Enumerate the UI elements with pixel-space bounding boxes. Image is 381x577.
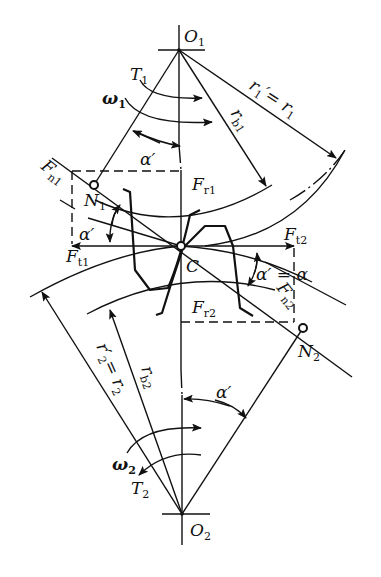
omega1-arrow [125, 98, 212, 123]
omega2-arrow [127, 428, 201, 453]
label-ft1: Ft1 [65, 246, 89, 269]
label-omega1: ω1 [102, 88, 126, 111]
label-omega2: ω2 [112, 454, 136, 477]
alpha-arc-bottom [184, 399, 246, 418]
point-o1 [177, 48, 181, 52]
label-o1: O1 [184, 26, 205, 49]
label-rb1: rb1 [224, 105, 255, 136]
gear-force-diagram: O1 O2 C N1 N2 T1 ω1 ω2 T2 α′ α′ α′ = α α… [0, 0, 381, 577]
label-c: C [186, 256, 199, 276]
point-n1 [90, 181, 98, 189]
label-t2: T2 [131, 478, 149, 501]
label-alpha-bottom: α′ [216, 382, 231, 402]
label-r1: r1′= r1 [244, 75, 302, 124]
torque-t1-arrow [140, 80, 202, 98]
point-c [177, 242, 185, 250]
label-fr2: Fr2 [191, 297, 216, 320]
label-alpha-left: α′ [79, 224, 94, 244]
label-alpha-right: α′ = α [256, 264, 308, 284]
label-fr1: Fr1 [191, 174, 216, 197]
label-t1: T1 [130, 64, 148, 87]
gear2-radii [42, 292, 303, 514]
label-rb2: rb2 [134, 363, 163, 391]
label-alpha-top: α′ [140, 149, 155, 169]
label-fn1: Fn1 [35, 155, 70, 190]
label-o2: O2 [190, 520, 211, 543]
torque-t2-arrow [139, 454, 201, 475]
label-r2: r′2= r2 [90, 339, 133, 397]
point-n2 [299, 324, 307, 332]
alpha-arc-left [110, 205, 120, 242]
point-o2 [180, 512, 184, 516]
center-line [179, 25, 182, 545]
alpha-arc-top [133, 131, 180, 146]
tangent-lines [60, 200, 346, 305]
label-n1: N1 [83, 190, 106, 213]
label-n2: N2 [297, 341, 320, 364]
label-ft2: Ft2 [283, 224, 307, 247]
